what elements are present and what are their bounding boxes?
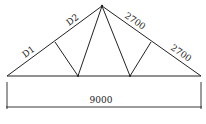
label-2700-upper: 2700 xyxy=(123,10,148,31)
bottom-node-right xyxy=(129,75,131,77)
right-top-chord xyxy=(102,6,201,76)
label-d1: D1 xyxy=(20,44,36,60)
bottom-node-left xyxy=(77,75,79,77)
label-d2: D2 xyxy=(64,12,80,28)
truss-nodes xyxy=(77,5,131,77)
apex-node xyxy=(101,5,103,7)
truss-members xyxy=(7,6,201,76)
truss-diagram: D1 D2 2700 2700 9000 xyxy=(0,0,206,124)
left-web-2 xyxy=(78,6,102,76)
left-web-1 xyxy=(55,42,78,76)
left-top-chord xyxy=(7,6,102,76)
label-2700-lower: 2700 xyxy=(169,42,194,63)
label-span: 9000 xyxy=(90,95,113,105)
right-web-1 xyxy=(130,42,151,76)
